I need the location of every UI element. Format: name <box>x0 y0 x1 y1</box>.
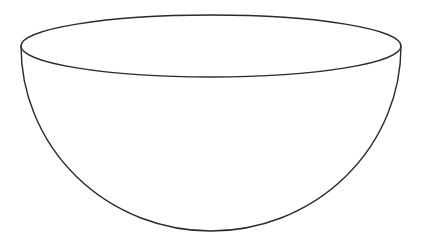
bowl-diagram <box>0 0 421 248</box>
background <box>0 0 421 248</box>
